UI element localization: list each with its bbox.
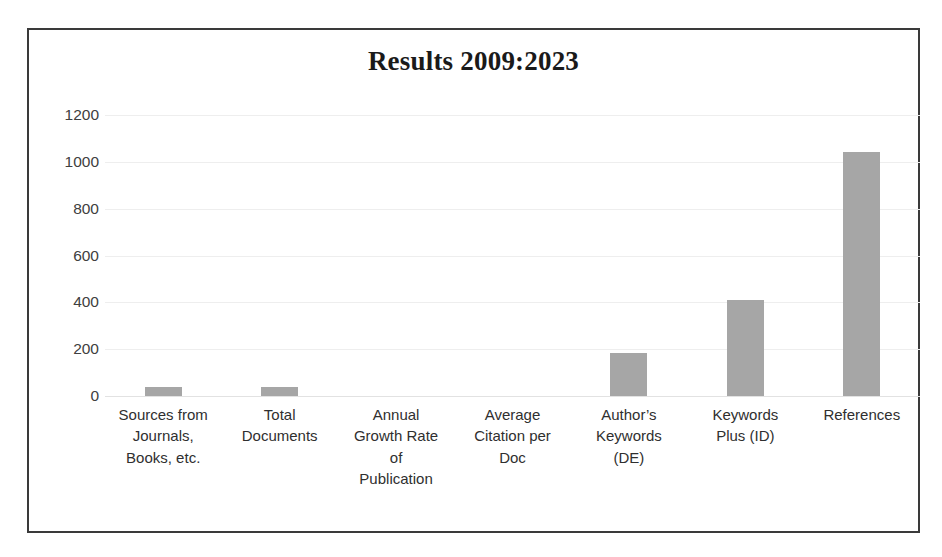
gridline [105,396,920,397]
x-axis-tick-line: Sources from [105,404,221,425]
bar [610,353,647,396]
x-axis-tick-line: Author’s [571,404,687,425]
x-axis-tick-line: Documents [222,425,338,446]
x-axis-tick-line: Doc [455,447,571,468]
chart-frame: Results 2009:2023 120010008006004002000 … [27,28,920,533]
chart-title: Results 2009:2023 [29,46,918,77]
y-axis-tick-label: 1200 [41,106,99,124]
x-axis-tick-line: of [338,447,454,468]
x-axis-tick-line: Books, etc. [105,447,221,468]
plot-area [105,115,920,396]
x-axis-tick-label: TotalDocuments [222,404,338,447]
y-axis-tick-label: 1000 [41,153,99,171]
x-axis-tick-label: Author’sKeywords(DE) [571,404,687,468]
x-axis-tick-line: Keywords [687,404,803,425]
bar [261,387,298,396]
x-axis-tick-line: Plus (ID) [687,425,803,446]
y-axis-tick-label: 200 [41,340,99,358]
bar [727,300,764,396]
x-axis-tick-label: AnnualGrowth RateofPublication [338,404,454,489]
bar [145,387,182,396]
x-axis: Sources fromJournals,Books, etc.TotalDoc… [105,404,920,524]
y-axis-tick-label: 400 [41,293,99,311]
x-axis-tick-line: Citation per [455,425,571,446]
x-axis-tick-line: References [804,404,920,425]
x-axis-tick-line: Annual [338,404,454,425]
y-axis-tick-label: 800 [41,200,99,218]
y-axis: 120010008006004002000 [37,115,99,396]
x-axis-tick-label: KeywordsPlus (ID) [687,404,803,447]
x-axis-tick-line: Journals, [105,425,221,446]
x-axis-tick-line: Growth Rate [338,425,454,446]
y-axis-tick-label: 0 [41,387,99,405]
x-axis-tick-line: Publication [338,468,454,489]
y-axis-tick-label: 600 [41,247,99,265]
bar [843,152,880,396]
x-axis-tick-label: References [804,404,920,425]
x-axis-tick-line: Average [455,404,571,425]
x-axis-tick-line: Keywords [571,425,687,446]
x-axis-tick-label: AverageCitation perDoc [455,404,571,468]
x-axis-tick-line: (DE) [571,447,687,468]
x-axis-tick-label: Sources fromJournals,Books, etc. [105,404,221,468]
x-axis-tick-line: Total [222,404,338,425]
